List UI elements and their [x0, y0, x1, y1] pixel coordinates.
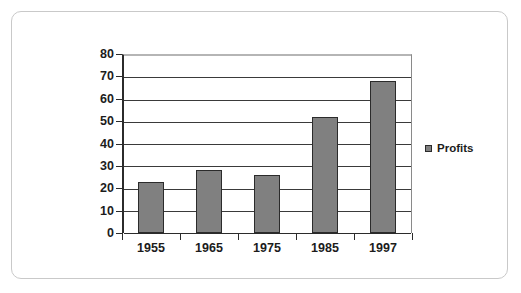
x-tickmark	[122, 233, 180, 240]
y-tick-label: 40	[78, 137, 114, 150]
y-tick-label: 70	[78, 70, 114, 83]
chart-figure: 80 70 60 50 40 30 20 10 0	[11, 11, 508, 279]
bar-slot	[238, 54, 296, 233]
x-tickmark	[296, 233, 354, 240]
x-tick-label-1985: 1985	[296, 242, 354, 255]
bar-1975[interactable]	[254, 175, 280, 233]
bar-1985[interactable]	[312, 117, 338, 233]
y-tick-label: 80	[78, 48, 114, 61]
y-tick-label: 50	[78, 115, 114, 128]
y-tick-label: 60	[78, 93, 114, 106]
x-tick-label-1955: 1955	[122, 242, 180, 255]
x-tick-label-1975: 1975	[238, 242, 296, 255]
x-tickmark	[180, 233, 238, 240]
y-tick-label: 30	[78, 160, 114, 173]
y-tick-label: 10	[78, 204, 114, 217]
bars-layer	[122, 54, 412, 233]
bar-slot	[180, 54, 238, 233]
x-tick-label-1965: 1965	[180, 242, 238, 255]
bar-1955[interactable]	[138, 182, 164, 233]
bar-slot	[354, 54, 412, 233]
x-axis-labels: 1955 1965 1975 1985 1997	[122, 242, 412, 255]
y-axis-labels: 80 70 60 50 40 30 20 10 0	[70, 54, 114, 233]
y-tick-label: 20	[78, 182, 114, 195]
x-tickmark-end	[412, 233, 413, 240]
bar-slot	[122, 54, 180, 233]
y-tick-label: 0	[78, 227, 114, 240]
bar-slot	[296, 54, 354, 233]
bar-1997[interactable]	[370, 81, 396, 233]
bar-1965[interactable]	[196, 170, 222, 233]
x-tick-label-1997: 1997	[354, 242, 412, 255]
legend-label-profits: Profits	[437, 143, 473, 155]
x-tickmark	[238, 233, 296, 240]
legend-swatch-icon	[425, 145, 432, 152]
chart-legend: Profits	[425, 143, 473, 155]
x-axis-tickmarks	[122, 233, 412, 240]
x-tickmark	[354, 233, 412, 240]
